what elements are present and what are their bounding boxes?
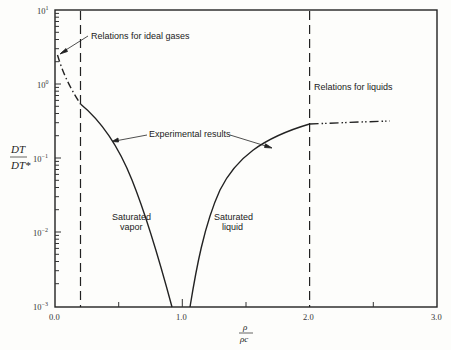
svg-text:10−2: 10−2 [33,227,48,238]
x-ticks [119,299,374,307]
saturated-vapor-label-1: Saturated [112,212,151,222]
y-tick-labels: 101 100 10−1 10−2 10−3 [33,5,49,312]
saturated-vapor-label-2: vapor [120,222,143,232]
ideal-gas-curve [58,55,81,104]
svg-text:ρc: ρc [239,334,248,344]
svg-text:10−3: 10−3 [33,301,48,312]
chart: Relations for ideal gases Relations for … [0,0,451,350]
svg-text:DT*: DT* [10,159,31,171]
svg-text:100: 100 [37,79,49,90]
svg-text:DT: DT [10,143,26,155]
svg-text:10−1: 10−1 [33,153,48,164]
svg-text:101: 101 [37,5,49,16]
saturated-liquid-label-2: liquid [222,222,243,232]
saturated-liquid-label-1: Saturated [214,212,253,222]
svg-text:0.0: 0.0 [49,312,60,322]
ideal-gases-label: Relations for ideal gases [91,31,190,41]
svg-text:2.0: 2.0 [303,312,314,322]
x-axis-label: ρ ρc [239,322,253,344]
svg-text:3.0: 3.0 [431,312,442,322]
svg-text:1.0: 1.0 [176,312,187,322]
svg-text:ρ: ρ [242,322,248,332]
plot-frame [55,10,437,307]
liquids-label: Relations for liquids [314,82,393,92]
experimental-results-label: Experimental results [149,129,231,139]
x-tick-labels: 0.0 1.0 2.0 3.0 [49,312,442,322]
liquid-relation-curve [310,121,390,124]
y-axis-label: DT DT* [10,143,31,171]
